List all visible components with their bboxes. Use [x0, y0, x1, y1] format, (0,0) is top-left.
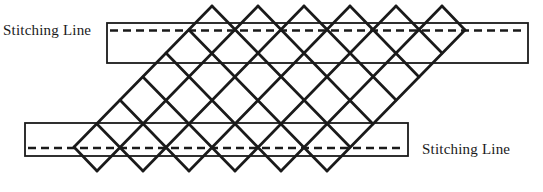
lattice-diagonal-se [74, 147, 97, 171]
lattice-diagonal-se [442, 6, 465, 30]
smocking-diagram: Stitching Line Stitching Line [0, 0, 543, 192]
lattice-diagonal-se [166, 53, 281, 171]
stitching-line-label-bottom: Stitching Line [422, 141, 510, 158]
stitching-line-label-top: Stitching Line [3, 22, 91, 39]
